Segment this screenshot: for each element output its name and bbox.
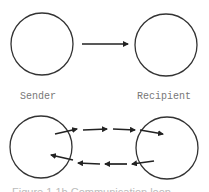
sender-node-bottom — [10, 116, 72, 178]
recipient-node-bottom — [136, 117, 198, 179]
forward-arrows — [55, 129, 163, 134]
recipient-node-top — [135, 14, 197, 76]
recipient-label: Recipient — [137, 91, 191, 102]
sender-label: Sender — [20, 91, 56, 102]
figure-caption: Figure 1.1b Communication loop — [12, 185, 171, 192]
sender-node-top — [11, 13, 73, 75]
